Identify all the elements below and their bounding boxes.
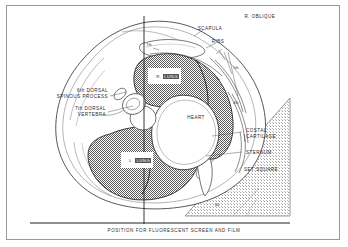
- dorsal-spinous-process-label-line1: 6th DORSAL: [30, 88, 108, 94]
- left-lung-label: L.LUNG: [121, 152, 153, 168]
- anatomical-cross-section-illustration: [0, 0, 348, 247]
- left-lung-name: LUNG: [135, 158, 151, 163]
- set-square-label: SET SQUARE: [244, 167, 302, 173]
- right-lung-label: R.LUNG: [148, 68, 181, 84]
- view-orientation-label: R. OBLIQUE: [232, 14, 288, 20]
- rib-marker-5th: 5th: [228, 66, 244, 72]
- rib-marker-4th: 4th: [228, 101, 244, 107]
- figure-caption: POSITION FOR FLUORESCENT SCREEN AND FILM: [0, 228, 348, 233]
- right-lung-name: LUNG: [163, 74, 179, 79]
- dorsal-spinous-process-label-line2: SPINOUS PROCESS: [20, 94, 108, 100]
- scapula-label: SCAPULA: [186, 26, 234, 32]
- rib-marker-7th: 7th: [141, 43, 157, 49]
- set-square-angle-label: 60: [210, 203, 224, 209]
- heart-label: HEART: [176, 115, 216, 121]
- dorsal-vertebra-label-line1: 7th DORSAL: [28, 106, 106, 112]
- ribs-label: RIBS: [203, 39, 233, 45]
- costal-cartilage-label-line1: COSTAL: [246, 128, 304, 134]
- dorsal-vertebra-label-line2: VERTEBRA: [28, 112, 106, 118]
- figure-page: R. OBLIQUE SCAPULA RIBS 7th 5th 4th 6th …: [0, 0, 348, 247]
- costal-cartilage-label-line2: CARTILAGE: [246, 134, 304, 140]
- sternum-label: STERNUM: [246, 150, 304, 156]
- right-lung-side-letter: R.: [156, 74, 163, 79]
- heart-shape: [152, 95, 219, 170]
